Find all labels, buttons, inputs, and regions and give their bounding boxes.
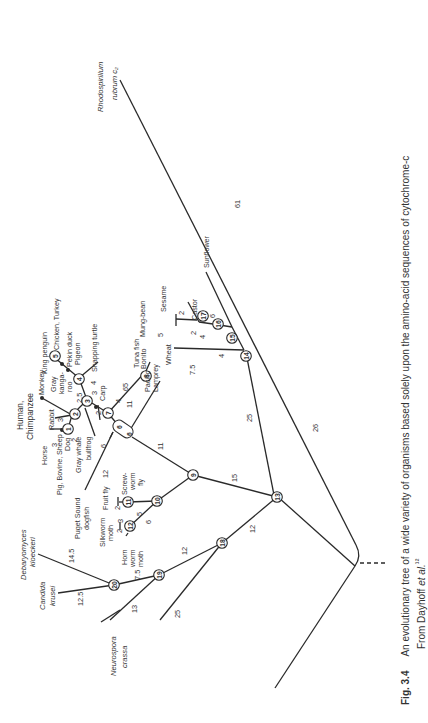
label-gray-kangaroo-3: roo — [65, 382, 74, 392]
branch-length: 12.5 — [76, 592, 85, 606]
label-candida: Candida — [38, 582, 47, 610]
label-rhodospirillum: Rhodospirillum — [96, 62, 105, 112]
label-king-penguin: King penguin — [40, 332, 49, 374]
branch-length: 2 — [115, 529, 124, 533]
svg-text:5: 5 — [52, 354, 59, 358]
branch-length: 5 — [156, 333, 165, 337]
branch-length: 4 — [217, 354, 226, 358]
branch-16-17 — [199, 322, 213, 324]
branch-point-dot — [94, 405, 98, 409]
label-screwworm-3: fly — [136, 478, 145, 486]
branch-length: 11 — [125, 400, 134, 408]
svg-text:13: 13 — [274, 493, 281, 501]
branch-length: 2 — [113, 506, 122, 510]
branch-length: 12 — [248, 525, 257, 533]
node-5: 5 — [50, 351, 61, 362]
svg-text:15: 15 — [229, 334, 236, 342]
branch-length: 12 — [101, 470, 110, 478]
branch-length: 12 — [180, 547, 189, 555]
node-13: 13 — [272, 492, 283, 503]
node-18: 18 — [217, 538, 228, 549]
label-puget-sound: Puget Sound — [73, 497, 82, 539]
node-17: 17 — [198, 311, 209, 322]
branch-length: 6 — [99, 444, 108, 448]
branch-length: 65 — [121, 383, 130, 391]
label-chimpanzee: Chimpanzee — [25, 393, 35, 440]
branch-length: 61 — [233, 200, 242, 208]
svg-text:7: 7 — [105, 411, 112, 415]
node-19: 19 — [154, 570, 165, 581]
branch-13-14 — [246, 353, 275, 500]
node-9: 9 — [188, 470, 199, 481]
branch-20-debaryomyces — [38, 554, 114, 585]
branch-length: 13 — [130, 605, 139, 613]
svg-text:4: 4 — [76, 377, 83, 381]
node-16: 16 — [213, 319, 224, 330]
node-4: 4 — [74, 374, 85, 385]
branch-root-13 — [275, 566, 355, 688]
label-crassa: crassa — [120, 646, 129, 668]
label-rabbit: Rabbit — [47, 409, 56, 430]
label-fruit-fly: Fruit fly — [101, 486, 110, 510]
svg-text:9: 9 — [190, 473, 197, 477]
branch-12-hornworm — [126, 533, 128, 536]
label-carp: Carp — [98, 385, 107, 401]
branch-length: 7.5 — [133, 570, 142, 580]
branch-length: 7.5 — [188, 365, 197, 375]
branch-length: 6 — [144, 520, 153, 524]
branch-length: 4 — [198, 335, 207, 339]
node-15: 15 — [227, 333, 238, 344]
branch-point-dot — [66, 368, 70, 372]
label-dogfish: dogfish — [82, 507, 91, 530]
label-pig-bovine: Pig, Bovine, — [55, 457, 64, 495]
branch-20-candida — [58, 585, 114, 593]
label-monkey: Monkey — [37, 369, 46, 395]
label-neurospora: Neurospora — [109, 636, 118, 676]
node-12: 12 — [125, 521, 136, 532]
branch-length: 11 — [156, 442, 165, 450]
branch-length: 25 — [245, 414, 254, 422]
label-sunflower: Sunflower — [202, 235, 211, 268]
branch-point-dot — [40, 396, 44, 400]
label-rhodospirillum-2: rubrum c₂ — [110, 67, 119, 100]
branch-length: 2 — [70, 438, 79, 442]
node-2: 2 — [70, 409, 81, 420]
branch-length: 14.5 — [67, 549, 76, 563]
node-11: 11 — [123, 497, 134, 508]
label-bullfrog: bullfrog — [84, 436, 93, 460]
svg-text:1: 1 — [65, 427, 72, 431]
node-14: 14 — [241, 351, 252, 362]
caption-source: From Dayhoff et al.¹² — [413, 156, 427, 649]
label-krusei: krusei — [48, 585, 57, 606]
svg-text:14: 14 — [243, 352, 250, 360]
svg-text:12: 12 — [127, 522, 134, 530]
branch-length: 2 — [94, 411, 103, 415]
label-mung-bean: Mung-bean — [138, 301, 147, 337]
phylogenetic-tree: 1 2 3 4 5 6 6 7 8 9 10 11 12 13 14 15 16… — [0, 0, 428, 723]
branch-point-dot — [60, 362, 64, 366]
branch-root-13-main — [278, 497, 355, 566]
branch-length: 3 — [90, 391, 99, 395]
svg-text:16: 16 — [215, 320, 222, 328]
label-tuna-fish: Tuna fish — [132, 339, 141, 368]
label-pekin-duck: Pekin duck — [65, 331, 74, 367]
svg-text:18: 18 — [219, 539, 226, 547]
label-horse: Horse — [40, 446, 49, 465]
branch-9-10 — [157, 475, 193, 501]
label-silkworm-moth: moth — [106, 525, 115, 541]
branch-root-curve — [355, 545, 359, 566]
branch-14-wheat — [174, 348, 244, 350]
label-castor: Castor — [190, 298, 199, 320]
branch-length: 25 — [173, 610, 182, 618]
svg-text:6: 6 — [116, 425, 123, 429]
node-10: 10 — [152, 496, 163, 507]
label-human: Human, — [15, 401, 25, 430]
branch-length: 6 — [208, 314, 217, 318]
branch-length: 2.5 — [75, 393, 84, 403]
branch-length: 4 — [114, 399, 123, 403]
branch-length: 2 — [177, 311, 186, 315]
svg-text:10: 10 — [154, 497, 161, 505]
svg-text:19: 19 — [156, 571, 163, 579]
branch-length: 15 — [230, 474, 239, 482]
label-pigeon: Pigeon — [73, 343, 82, 365]
